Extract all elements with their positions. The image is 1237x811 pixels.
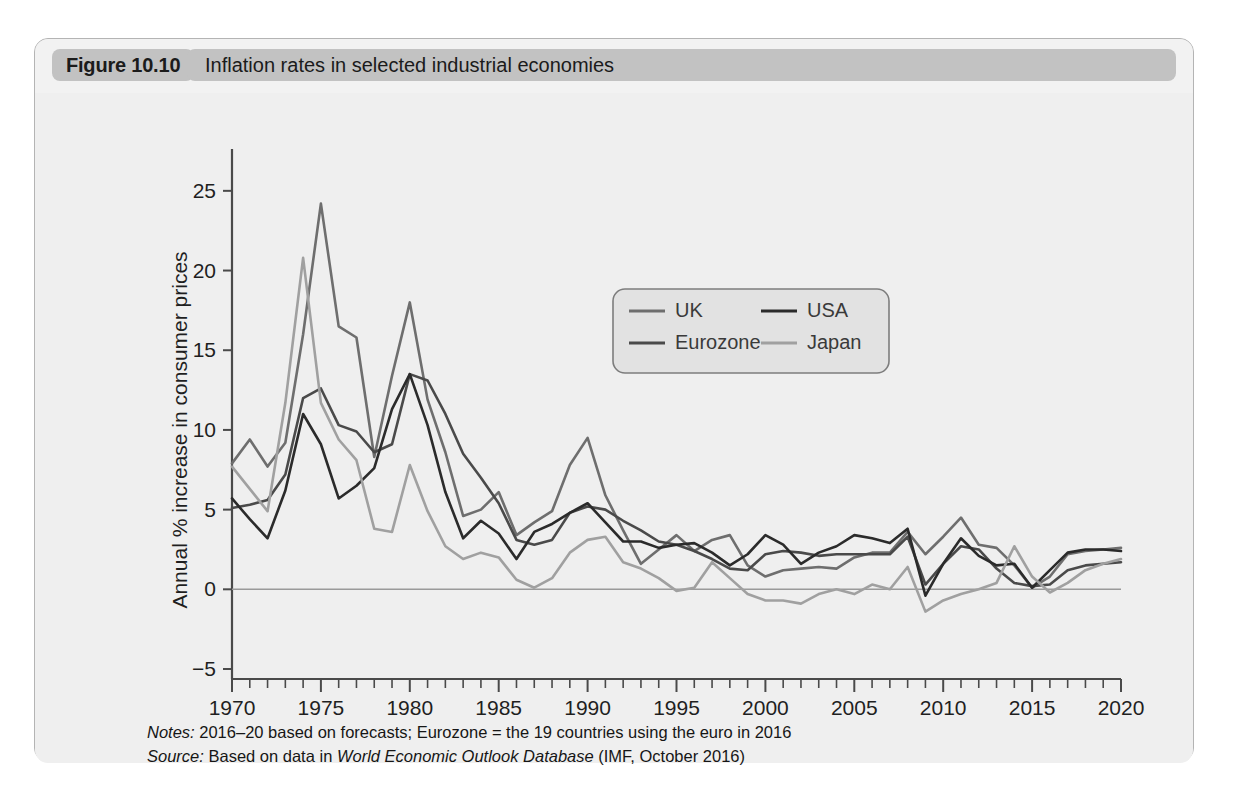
x-tick-label: 1975	[298, 696, 345, 719]
x-tick-label: 2020	[1098, 696, 1145, 719]
notes-line: Notes: 2016–20 based on forecasts; Euroz…	[147, 721, 791, 745]
x-tick-label: 2010	[920, 696, 967, 719]
x-tick-label: 1985	[475, 696, 522, 719]
x-tick-label: 1995	[653, 696, 700, 719]
figure-title: Inflation rates in selected industrial e…	[187, 49, 1176, 81]
series-group	[232, 204, 1121, 612]
chart-legend: UKUSAEurozoneJapan	[613, 289, 889, 373]
figure-number-badge: Figure 10.10	[52, 49, 194, 81]
y-tick-label: 25	[193, 179, 216, 202]
source-suffix: (IMF, October 2016)	[594, 747, 745, 765]
figure-header: Figure 10.10 Inflation rates in selected…	[35, 39, 1193, 93]
y-tick-label: 5	[204, 498, 216, 521]
legend-label-eurozone: Eurozone	[675, 331, 761, 353]
notes-text: 2016–20 based on forecasts; Eurozone = t…	[195, 723, 792, 741]
source-publication: World Economic Outlook Database	[337, 747, 594, 765]
y-tick-label: 15	[193, 338, 216, 361]
source-prefix: Based on data in	[204, 747, 337, 765]
notes-block: Notes: 2016–20 based on forecasts; Euroz…	[147, 721, 791, 769]
x-tick-label: 1970	[209, 696, 256, 719]
y-tick-label: 0	[204, 577, 216, 600]
x-tick-label: 2015	[1009, 696, 1056, 719]
x-tick-label: 1980	[386, 696, 433, 719]
y-axis-title: Annual % increase in consumer prices	[168, 251, 191, 608]
source-line: Source: Based on data in World Economic …	[147, 745, 791, 769]
y-tick-label: 10	[193, 418, 216, 441]
x-tick-label: 2000	[742, 696, 789, 719]
x-tick-label: 2005	[831, 696, 878, 719]
series-line-usa	[232, 374, 1121, 596]
legend-label-usa: USA	[807, 299, 849, 321]
legend-label-japan: Japan	[807, 331, 862, 353]
source-label: Source:	[147, 747, 204, 765]
y-tick-label: 20	[193, 259, 216, 282]
legend-label-uk: UK	[675, 299, 703, 321]
x-tick-label: 1990	[564, 696, 611, 719]
series-line-uk	[232, 204, 1121, 588]
y-tick-label: −5	[192, 657, 216, 680]
line-chart: −505101520251970197519801985199019952000…	[35, 93, 1193, 763]
plot-panel: −505101520251970197519801985199019952000…	[35, 93, 1193, 763]
notes-label: Notes:	[147, 723, 195, 741]
figure-card: Figure 10.10 Inflation rates in selected…	[34, 38, 1194, 762]
